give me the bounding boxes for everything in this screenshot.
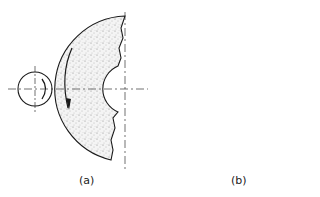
panel-label-b: (b): [231, 174, 247, 187]
panel-a: [8, 12, 148, 172]
panel-label-a: (a): [79, 174, 94, 187]
diagram-canvas: [0, 0, 320, 197]
